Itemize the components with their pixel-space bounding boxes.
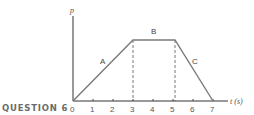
svg-text:5: 5	[170, 105, 175, 114]
x-tick-labels: 0 1 2 3 4 5 6 7	[70, 105, 215, 114]
momentum-time-graph: p t (s) 0 1 2 3 4 5 6 7 A B C	[0, 0, 254, 115]
segment-label-a: A	[100, 57, 106, 66]
svg-text:6: 6	[190, 105, 195, 114]
svg-text:4: 4	[150, 105, 155, 114]
segment-label-b: B	[151, 27, 156, 36]
y-axis-label: p	[69, 6, 74, 15]
momentum-curve	[73, 40, 213, 101]
x-axis-label: t (s)	[230, 97, 243, 106]
segment-label-c: C	[192, 57, 198, 66]
svg-text:1: 1	[90, 105, 95, 114]
svg-text:7: 7	[210, 105, 215, 114]
svg-text:0: 0	[70, 105, 75, 114]
svg-text:2: 2	[110, 105, 115, 114]
svg-text:3: 3	[130, 105, 135, 114]
